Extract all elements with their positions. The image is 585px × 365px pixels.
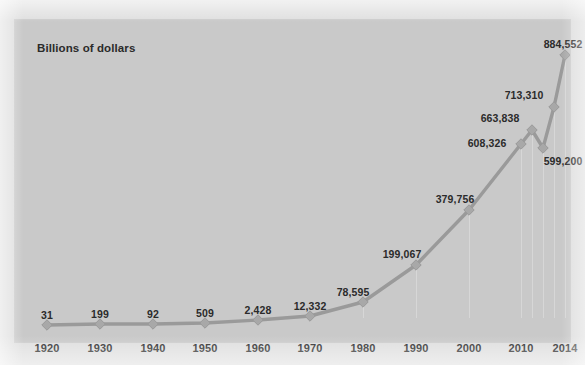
chart-panel: 31199925092,42812,33278,595199,067379,75… bbox=[15, 20, 570, 342]
data-point-label: 78,595 bbox=[337, 286, 370, 298]
x-axis-tick-label: 1930 bbox=[88, 342, 113, 354]
x-axis-tick-label: 1960 bbox=[246, 342, 271, 354]
data-point-label: 2,428 bbox=[245, 304, 272, 316]
x-axis-tick-label: 1920 bbox=[35, 342, 60, 354]
data-point-marker[interactable] bbox=[549, 102, 559, 112]
data-point-marker[interactable] bbox=[148, 319, 158, 329]
chart-title: Billions of dollars bbox=[37, 42, 135, 54]
data-point-marker[interactable] bbox=[200, 318, 210, 328]
data-point-label: 199 bbox=[91, 308, 109, 320]
data-point-markers bbox=[42, 50, 570, 330]
x-axis-tick-label: 1980 bbox=[351, 342, 376, 354]
data-point-marker[interactable] bbox=[560, 50, 570, 60]
data-point-label: 92 bbox=[147, 308, 159, 320]
data-point-label: 509 bbox=[196, 307, 214, 319]
data-point-marker[interactable] bbox=[95, 319, 105, 329]
data-point-label: 31 bbox=[41, 309, 53, 321]
x-axis-tick-label: 2010 bbox=[509, 342, 534, 354]
x-axis: 1920193019401950196019701980199020002010… bbox=[15, 342, 570, 362]
data-point-label: 199,067 bbox=[383, 248, 422, 260]
x-axis-tick-label: 2014 bbox=[553, 342, 578, 354]
data-point-label: 713,310 bbox=[505, 89, 544, 101]
data-point-label: 608,326 bbox=[468, 137, 507, 149]
data-point-label: 379,756 bbox=[436, 193, 475, 205]
data-point-label: 599,200 bbox=[544, 155, 583, 167]
data-point-marker[interactable] bbox=[253, 315, 263, 325]
x-axis-tick-label: 1970 bbox=[298, 342, 323, 354]
x-axis-tick-label: 1990 bbox=[404, 342, 429, 354]
plot-area: 31199925092,42812,33278,595199,067379,75… bbox=[15, 20, 570, 342]
x-axis-tick-label: 1940 bbox=[141, 342, 166, 354]
x-axis-tick-label: 1950 bbox=[193, 342, 218, 354]
data-point-label: 884,552 bbox=[544, 38, 583, 50]
x-axis-tick-label: 2000 bbox=[457, 342, 482, 354]
line-series-chart bbox=[15, 20, 570, 342]
data-point-label: 12,332 bbox=[294, 300, 327, 312]
series-line bbox=[47, 55, 565, 325]
data-point-label: 663,838 bbox=[481, 112, 520, 124]
data-point-marker[interactable] bbox=[305, 311, 315, 321]
data-point-marker[interactable] bbox=[42, 320, 52, 330]
